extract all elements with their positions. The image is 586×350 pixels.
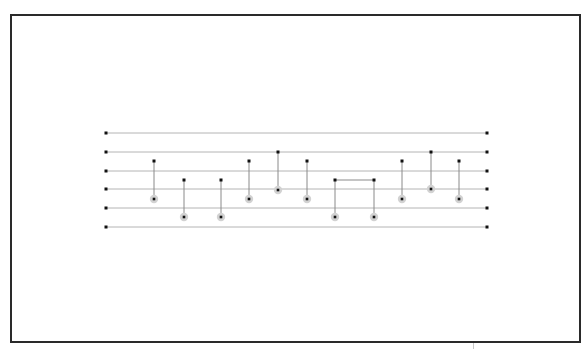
gate-5 (274, 151, 282, 195)
target-dot-icon (373, 216, 376, 219)
wire-end-dot-icon (486, 132, 489, 135)
control-dot-icon (248, 160, 251, 163)
control-dot-icon (183, 179, 186, 182)
target-dot-icon (334, 216, 337, 219)
gate-3 (217, 179, 225, 222)
wire-start-dot-icon (105, 188, 108, 191)
gate-1 (150, 160, 158, 204)
gate-10 (427, 151, 435, 194)
circuit-diagram (0, 0, 586, 350)
gates (150, 151, 463, 222)
wire-start-dot-icon (105, 226, 108, 229)
control-dot-icon (373, 179, 376, 182)
gate-6 (303, 160, 311, 204)
target-dot-icon (277, 189, 280, 192)
wire-1 (105, 132, 489, 135)
target-dot-icon (220, 216, 223, 219)
wire-start-dot-icon (105, 170, 108, 173)
gate-4 (245, 160, 253, 204)
target-dot-icon (248, 198, 251, 201)
control-dot-icon (334, 179, 337, 182)
control-dot-icon (430, 151, 433, 154)
target-dot-icon (401, 198, 404, 201)
wire-end-dot-icon (486, 170, 489, 173)
gate-2 (180, 179, 188, 222)
control-dot-icon (153, 160, 156, 163)
wire-5 (105, 207, 489, 210)
control-dot-icon (401, 160, 404, 163)
control-dot-icon (458, 160, 461, 163)
gate-11 (455, 160, 463, 204)
wire-end-dot-icon (486, 207, 489, 210)
wire-start-dot-icon (105, 132, 108, 135)
wire-end-dot-icon (486, 151, 489, 154)
wire-start-dot-icon (105, 151, 108, 154)
target-dot-icon (153, 198, 156, 201)
control-dot-icon (277, 151, 280, 154)
gate-8 (370, 179, 378, 222)
target-dot-icon (183, 216, 186, 219)
wire-end-dot-icon (486, 226, 489, 229)
wire-end-dot-icon (486, 188, 489, 191)
gate-7 (331, 179, 339, 222)
control-dot-icon (220, 179, 223, 182)
target-dot-icon (306, 198, 309, 201)
target-dot-icon (458, 198, 461, 201)
wire-6 (105, 226, 489, 229)
target-dot-icon (430, 188, 433, 191)
gate-9 (398, 160, 406, 204)
control-dot-icon (306, 160, 309, 163)
wire-start-dot-icon (105, 207, 108, 210)
